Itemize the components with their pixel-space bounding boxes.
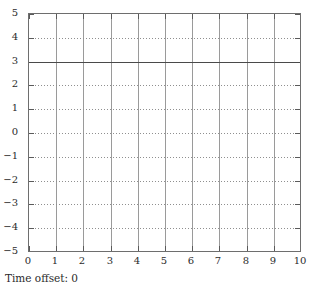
y-tick-label: 0: [12, 127, 18, 137]
x-tick-mark-top: [192, 14, 193, 19]
gridline-horizontal: [29, 109, 300, 110]
gridline-horizontal: [29, 38, 300, 39]
y-tick-mark: [29, 85, 34, 86]
y-tick-mark-right: [295, 14, 300, 15]
y-tick-label: 3: [12, 56, 18, 66]
x-tick-mark-top: [83, 14, 84, 19]
y-tick-mark-right: [295, 38, 300, 39]
x-tick-mark: [219, 246, 220, 251]
x-tick-label: 10: [280, 256, 318, 266]
y-tick-label: 2: [12, 79, 18, 89]
y-tick-mark-right: [295, 181, 300, 182]
x-tick-mark: [83, 246, 84, 251]
data-series-layer: [29, 14, 300, 251]
y-tick-mark-right: [295, 109, 300, 110]
y-tick-label: −5: [3, 246, 18, 256]
gridline-vertical: [138, 14, 139, 251]
gridline-horizontal: [29, 181, 300, 182]
y-tick-mark-right: [295, 204, 300, 205]
y-tick-label: −1: [3, 151, 18, 161]
x-tick-mark-top: [111, 14, 112, 19]
y-tick-label: 1: [12, 103, 18, 113]
x-tick-mark: [29, 246, 30, 251]
gridline-horizontal: [29, 85, 300, 86]
x-tick-mark-top: [219, 14, 220, 19]
y-tick-mark: [29, 38, 34, 39]
y-tick-mark: [29, 181, 34, 182]
x-axis-tick-labels: 012345678910: [28, 256, 301, 270]
plot-area: [28, 13, 301, 252]
x-tick-mark-top: [274, 14, 275, 19]
x-tick-mark: [165, 246, 166, 251]
y-tick-label: −4: [3, 222, 18, 232]
y-tick-label: 5: [12, 8, 18, 18]
y-tick-mark: [29, 228, 34, 229]
x-tick-mark-top: [56, 14, 57, 19]
y-tick-mark-right: [295, 85, 300, 86]
gridline-vertical: [219, 14, 220, 251]
x-tick-mark: [192, 246, 193, 251]
gridline-vertical: [56, 14, 57, 251]
chart-figure: −5−4−3−2−1012345 012345678910 Time offse…: [0, 0, 318, 291]
gridline-vertical: [83, 14, 84, 251]
gridline-horizontal: [29, 62, 300, 63]
gridline-horizontal: [29, 133, 300, 134]
x-tick-mark-top: [165, 14, 166, 19]
x-tick-mark-top: [247, 14, 248, 19]
x-tick-mark: [274, 246, 275, 251]
x-tick-mark: [56, 246, 57, 251]
y-tick-mark-right: [295, 157, 300, 158]
tick-marks: [29, 14, 300, 251]
y-tick-mark: [29, 14, 34, 15]
time-offset-caption: Time offset: 0: [5, 272, 78, 284]
y-tick-label: −3: [3, 198, 18, 208]
gridlines: [29, 14, 300, 251]
x-tick-mark: [247, 246, 248, 251]
y-tick-mark: [29, 109, 34, 110]
y-tick-label: 4: [12, 32, 18, 42]
y-tick-mark: [29, 62, 34, 63]
gridline-horizontal: [29, 228, 300, 229]
y-tick-mark: [29, 157, 34, 158]
gridline-vertical: [165, 14, 166, 251]
series-line: [29, 62, 300, 63]
gridline-vertical: [247, 14, 248, 251]
gridline-vertical: [111, 14, 112, 251]
x-tick-mark-top: [29, 14, 30, 19]
y-tick-mark: [29, 204, 34, 205]
x-tick-mark: [138, 246, 139, 251]
x-tick-mark: [111, 246, 112, 251]
y-tick-mark-right: [295, 228, 300, 229]
gridline-horizontal: [29, 157, 300, 158]
x-tick-mark-top: [138, 14, 139, 19]
y-tick-mark-right: [295, 133, 300, 134]
gridline-vertical: [192, 14, 193, 251]
gridline-vertical: [274, 14, 275, 251]
y-axis-tick-labels: −5−4−3−2−1012345: [0, 13, 24, 252]
gridline-horizontal: [29, 204, 300, 205]
y-tick-label: −2: [3, 175, 18, 185]
y-tick-mark: [29, 133, 34, 134]
y-tick-mark-right: [295, 62, 300, 63]
